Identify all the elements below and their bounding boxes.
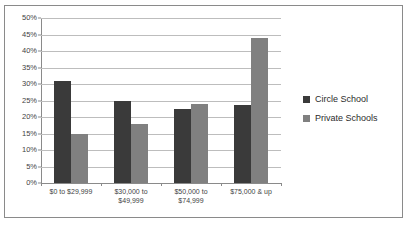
- x-tick-mark: [221, 183, 222, 186]
- bar-group: [41, 18, 101, 183]
- y-tick-label: 15%: [22, 130, 37, 138]
- bar: [131, 124, 148, 183]
- y-tick-mark: [38, 166, 41, 167]
- x-axis-labels: $0 to $29,999$30,000 to$49,999$50,000 to…: [41, 186, 281, 216]
- bar: [71, 134, 88, 184]
- bar: [191, 104, 208, 183]
- y-tick-label: 35%: [22, 64, 37, 72]
- y-tick-mark: [38, 18, 41, 19]
- x-axis-category-label: $75,000 & up: [219, 188, 283, 197]
- y-tick-label: 50%: [22, 14, 37, 22]
- x-axis-category-label: $30,000 to$49,999: [99, 188, 163, 206]
- plot-area: [41, 18, 281, 183]
- legend-swatch: [303, 96, 310, 103]
- bar: [251, 38, 268, 183]
- bar-group: [221, 18, 281, 183]
- x-axis-category-label-line: $74,999: [159, 197, 223, 206]
- bar-group: [101, 18, 161, 183]
- x-axis-category-label-line: $49,999: [99, 197, 163, 206]
- y-tick-mark: [38, 183, 41, 184]
- y-tick-mark: [38, 34, 41, 35]
- x-axis-category-label: $50,000 to$74,999: [159, 188, 223, 206]
- x-axis-category-label-line: $30,000 to: [99, 188, 163, 197]
- y-tick-label: 10%: [22, 146, 37, 154]
- y-tick-label: 45%: [22, 31, 37, 39]
- y-tick-mark: [38, 117, 41, 118]
- x-tick-mark: [41, 183, 42, 186]
- chart-legend: Circle SchoolPrivate Schools: [303, 94, 378, 123]
- y-tick-mark: [38, 133, 41, 134]
- bar: [174, 109, 191, 183]
- y-tick-mark: [38, 67, 41, 68]
- y-tick-label: 25%: [22, 97, 37, 105]
- x-axis-category-label-line: $75,000 & up: [219, 188, 283, 197]
- legend-label: Private Schools: [315, 113, 378, 123]
- y-tick-mark: [38, 51, 41, 52]
- bar: [234, 105, 251, 183]
- y-tick-label: 40%: [22, 47, 37, 55]
- x-tick-mark: [161, 183, 162, 186]
- x-tick-mark: [101, 183, 102, 186]
- y-tick-label: 20%: [22, 113, 37, 121]
- y-tick-label: 5%: [26, 163, 37, 171]
- y-tick-label: 30%: [22, 80, 37, 88]
- bar: [114, 101, 131, 184]
- chart-frame: 0%5%10%15%20%25%30%35%40%45%50% $0 to $2…: [4, 5, 403, 218]
- legend-label: Circle School: [315, 94, 368, 104]
- legend-entry: Circle School: [303, 94, 378, 104]
- y-tick-mark: [38, 100, 41, 101]
- y-axis-labels: 0%5%10%15%20%25%30%35%40%45%50%: [5, 18, 37, 183]
- x-axis-category-label: $0 to $29,999: [39, 188, 103, 197]
- y-tick-mark: [38, 150, 41, 151]
- y-tick-label: 0%: [26, 179, 37, 187]
- legend-entry: Private Schools: [303, 113, 378, 123]
- x-axis-category-label-line: $50,000 to: [159, 188, 223, 197]
- legend-swatch: [303, 115, 310, 122]
- y-tick-mark: [38, 84, 41, 85]
- x-axis-category-label-line: $0 to $29,999: [39, 188, 103, 197]
- bar: [54, 81, 71, 183]
- bar-group: [161, 18, 221, 183]
- x-tick-mark: [281, 183, 282, 186]
